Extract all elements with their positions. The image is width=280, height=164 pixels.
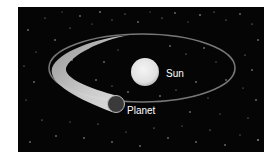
sun-label: Sun — [166, 68, 184, 79]
orbit-diagram: Sun Planet — [0, 0, 280, 164]
planet-icon — [108, 96, 125, 113]
sun-icon — [131, 58, 159, 86]
planet-label: Planet — [127, 105, 156, 116]
